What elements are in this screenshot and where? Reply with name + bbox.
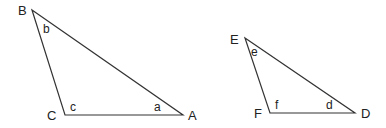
angle-label-a: a <box>154 100 161 114</box>
angle-label-e: e <box>251 45 258 59</box>
triangle-def-outline <box>245 38 355 113</box>
triangle-abc: B C A b c a <box>18 3 197 123</box>
triangle-def: E F D e f d <box>230 32 370 121</box>
vertex-label-b: B <box>18 3 27 18</box>
angle-label-b: b <box>43 22 50 36</box>
vertex-label-f: F <box>254 106 262 121</box>
angle-label-f: f <box>275 98 279 112</box>
angle-label-c: c <box>70 100 76 114</box>
vertex-label-a: A <box>188 108 197 123</box>
angle-label-d: d <box>326 98 333 112</box>
vertex-label-e: E <box>230 32 239 47</box>
vertex-label-d: D <box>361 106 370 121</box>
diagram-canvas: B C A b c a E F D e f d <box>0 0 386 128</box>
vertex-label-c: C <box>47 108 56 123</box>
